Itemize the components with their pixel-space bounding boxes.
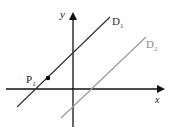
point-p1: [46, 76, 50, 80]
coordinate-diagram: y x D1 D2 P1: [0, 0, 175, 136]
point-p1-label: P1: [26, 73, 36, 88]
x-axis-label: x: [154, 94, 160, 105]
line-d2-label: D2: [146, 38, 158, 53]
line-d1-label: D1: [112, 15, 124, 30]
y-axis-label: y: [59, 8, 65, 20]
line-d2: [61, 37, 146, 118]
line-d1: [17, 17, 110, 107]
